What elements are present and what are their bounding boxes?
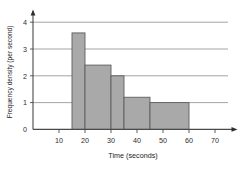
y-tick-labels-group: 4 3 2 1 0 <box>23 18 27 134</box>
bar-bin-15-20 <box>72 33 85 129</box>
bar-bin-35-45 <box>124 97 150 129</box>
ytick-label-4: 4 <box>23 18 27 27</box>
x-axis-title: Time (seconds) <box>108 151 157 160</box>
xtick-label-70: 70 <box>211 136 219 145</box>
xtick-label-20: 20 <box>81 136 89 145</box>
xtick-label-60: 60 <box>185 136 193 145</box>
chart-canvas: 4 3 2 1 0 10 20 30 40 50 60 70 Time (sec… <box>0 0 245 176</box>
x-tick-labels-group: 10 20 30 40 50 60 70 <box>55 136 219 145</box>
y-axis-title: Frequency density (per second) <box>6 26 14 119</box>
xtick-label-50: 50 <box>159 136 167 145</box>
bars-group <box>72 33 189 129</box>
ytick-label-3: 3 <box>23 45 27 54</box>
gridlines-group <box>33 22 228 102</box>
xtick-label-10: 10 <box>55 136 63 145</box>
histogram-chart: 4 3 2 1 0 10 20 30 40 50 60 70 Time (sec… <box>0 0 245 176</box>
xtick-label-40: 40 <box>133 136 141 145</box>
bar-bin-20-30 <box>85 65 111 129</box>
x-axis-arrow-icon <box>232 127 238 132</box>
bar-bin-30-35 <box>111 76 124 130</box>
y-axis-arrow-icon <box>31 10 36 16</box>
bar-bin-45-60 <box>150 103 189 130</box>
xtick-label-30: 30 <box>107 136 115 145</box>
ytick-label-0: 0 <box>23 125 27 134</box>
ytick-label-1: 1 <box>23 98 27 107</box>
ytick-label-2: 2 <box>23 72 27 81</box>
